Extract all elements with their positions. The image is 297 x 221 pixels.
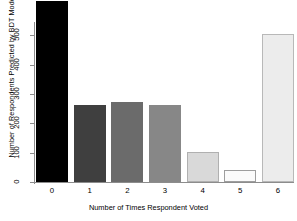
x-axis-tick-label: 0 [36, 186, 68, 195]
x-axis-tick-label: 5 [224, 186, 256, 195]
x-axis-tick-label: 3 [149, 186, 181, 195]
y-axis-tick [30, 35, 34, 36]
x-axis-line [34, 182, 294, 183]
bar [187, 152, 219, 182]
x-axis-tick-label: 1 [74, 186, 106, 195]
bar [36, 1, 68, 182]
y-axis-tick [30, 65, 34, 66]
bar [111, 102, 143, 182]
bar [149, 105, 181, 182]
y-axis-tick-label-text: 0 [12, 171, 21, 193]
y-axis-tick-label-text: 300 [12, 82, 21, 104]
bar-slot [149, 0, 181, 182]
y-axis-tick-label: 300 [5, 89, 27, 99]
bar-slot [262, 0, 294, 182]
y-axis-tick-label-text: 100 [12, 141, 21, 163]
y-axis-tick [30, 153, 34, 154]
bar-chart: Number of Respondents Predicted by BDT M… [0, 0, 297, 221]
bar [74, 105, 106, 182]
x-axis-title: Number of Times Respondent Voted [0, 203, 297, 212]
y-axis-tick-label-text: 400 [12, 53, 21, 75]
x-axis-tick-labels: 0123456 [36, 186, 294, 195]
x-axis-tick-label: 6 [262, 186, 294, 195]
y-axis-tick [30, 94, 34, 95]
bar-slot [36, 0, 68, 182]
bar-slot [187, 0, 219, 182]
bar-slot [224, 0, 256, 182]
bar [262, 34, 294, 182]
y-axis-tick-label: 200 [5, 118, 27, 128]
bar [224, 170, 256, 182]
bar-slot [111, 0, 143, 182]
y-axis-tick-label: 400 [5, 60, 27, 70]
bar-slot [74, 0, 106, 182]
y-axis-tick-label-text: 500 [12, 24, 21, 46]
y-axis-tick-label: 100 [5, 148, 27, 158]
y-axis-tick-label-text: 200 [12, 112, 21, 134]
y-axis-tick [30, 123, 34, 124]
y-axis-tick-label: 0 [5, 177, 27, 187]
y-axis-line [34, 22, 35, 184]
bars-container [36, 0, 294, 182]
x-axis-tick-label: 2 [111, 186, 143, 195]
x-axis-tick-label: 4 [187, 186, 219, 195]
y-axis-tick-label: 500 [5, 30, 27, 40]
